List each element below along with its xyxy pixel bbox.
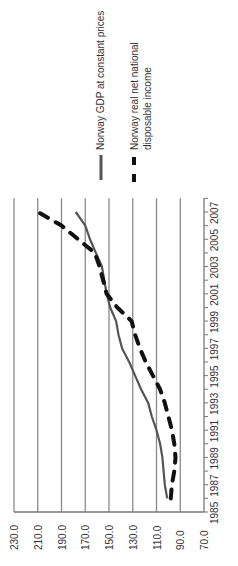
x-tick-label: 1985 [209,501,220,524]
y-tick-label: 230.0 [9,525,20,550]
x-tick-label: 1989 [209,447,220,470]
legend-label-income-line1: Norway real net national [129,42,140,150]
y-tick-label: 70.0 [199,530,210,550]
x-tick-label: 1993 [209,392,220,415]
line-chart: 70.090.0110.0130.0150.0170.0190.0210.023… [0,0,238,566]
x-tick-label: 1995 [209,365,220,388]
x-tick-label: 2007 [209,201,220,224]
x-tick-label: 2005 [209,229,220,252]
y-tick-label: 170.0 [80,525,91,550]
income-line [38,212,176,498]
x-tick-label: 2003 [209,256,220,279]
x-tick-label: 2001 [209,283,220,306]
y-tick-label: 130.0 [128,525,139,550]
x-axis-tick-labels: 1985198719891991199319951997199920012003… [209,201,220,524]
y-tick-label: 110.0 [152,525,163,550]
y-tick-label: 210.0 [33,525,44,550]
axes [14,198,208,512]
x-tick-label: 1991 [209,419,220,442]
x-tick-label: 1999 [209,310,220,333]
y-axis-tick-labels: 70.090.0110.0130.0150.0170.0190.0210.023… [9,525,210,550]
x-tick-label: 1997 [209,338,220,361]
y-tick-label: 90.0 [175,530,186,550]
legend: Norway GDP at constant prices Norway rea… [95,11,153,182]
legend-label-income-line2: disposable income [142,67,153,150]
y-tick-label: 190.0 [57,525,68,550]
legend-label-gdp: Norway GDP at constant prices [95,11,106,150]
series-lines [38,212,176,498]
y-tick-label: 150.0 [104,525,115,550]
x-tick-label: 1987 [209,474,220,497]
gdp-line [76,212,167,498]
gridlines [14,198,180,512]
